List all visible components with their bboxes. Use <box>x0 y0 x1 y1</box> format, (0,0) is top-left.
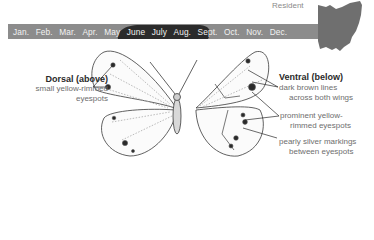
ventral-note-1-line-1: dark brown lines <box>279 83 353 93</box>
ventral-note-silver: pearly silver markings between eyespots <box>279 137 356 157</box>
dorsal-hindwing <box>102 109 176 156</box>
ventral-title: Ventral (below) <box>279 72 343 82</box>
ventral-note-3-line-2: between eyespots <box>279 147 356 157</box>
ventral-hindwing <box>196 107 263 156</box>
ventral-note-1-line-2: across both wings <box>279 93 353 103</box>
dorsal-label: Dorsal (above) small yellow-rimmed eyesp… <box>0 74 108 104</box>
ventral-note-eyespots: prominent yellow- rimmed eyespots <box>280 111 351 131</box>
ventral-note-2-line-2: rimmed eyespots <box>280 121 351 131</box>
ventral-note-2-line-1: prominent yellow- <box>280 111 351 121</box>
butterfly-body <box>173 98 181 134</box>
ventral-note-lines: dark brown lines across both wings <box>279 83 353 103</box>
dorsal-note-line-2: eyespots <box>0 94 108 104</box>
dorsal-title: Dorsal (above) <box>0 74 108 84</box>
ventral-label: Ventral (below) <box>279 72 343 82</box>
ventral-note-3-line-1: pearly silver markings <box>279 137 356 147</box>
dorsal-note-line-1: small yellow-rimmed <box>0 84 108 94</box>
